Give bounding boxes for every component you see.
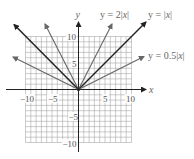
origin-vertex [77, 88, 80, 91]
label-halfabs: y = 0.5|x| [148, 50, 185, 61]
x-tick-5: 5 [103, 94, 108, 104]
x-tick-m5: −5 [48, 94, 58, 104]
abs-value-graph: x y −10 −5 5 10 10 5 −5 −10 y = 2|x| y =… [0, 0, 194, 159]
y-axis-label: y [75, 9, 81, 20]
y-tick-5: 5 [72, 59, 77, 69]
line-abs-right [79, 22, 147, 90]
y-tick-labels: 10 5 −5 −10 [62, 32, 79, 149]
line-halfabs-right [79, 57, 145, 90]
line-halfabs-left [13, 57, 79, 90]
x-axis-label: x [148, 84, 154, 95]
y-tick-m5: −5 [69, 112, 79, 122]
x-tick-m10: −10 [20, 94, 35, 104]
label-abs: y = |x| [148, 9, 172, 20]
x-tick-10: 10 [126, 94, 136, 104]
label-2abs: y = 2|x| [100, 9, 129, 20]
y-tick-10: 10 [67, 32, 77, 42]
y-tick-m10: −10 [63, 139, 78, 149]
